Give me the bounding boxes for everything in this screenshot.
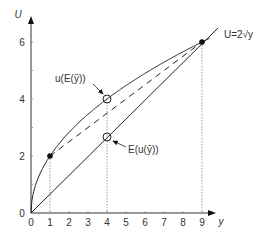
y-axis-label: U — [14, 9, 22, 20]
ytick-4: 4 — [19, 94, 25, 105]
xtick-4: 4 — [104, 217, 110, 228]
arrow-u-of-expectation — [93, 84, 103, 94]
ytick-2: 2 — [19, 151, 25, 162]
label-u-of-expectation: u(E(ȳ)) — [55, 73, 86, 84]
ytick-0: 0 — [19, 208, 25, 219]
point-9-6 — [199, 39, 205, 45]
arrow-expected-utility — [113, 141, 126, 147]
xtick-2: 2 — [66, 217, 72, 228]
xtick-3: 3 — [85, 217, 91, 228]
label-expected-utility: E(u(ȳ)) — [128, 144, 159, 155]
label-curve: U=2√y — [224, 29, 253, 40]
dashed-chord — [50, 42, 202, 156]
linear-line — [31, 28, 218, 213]
xtick-8: 8 — [180, 217, 186, 228]
xtick-6: 6 — [142, 217, 148, 228]
xtick-9: 9 — [199, 217, 205, 228]
utility-chart: 0 1 2 3 4 5 6 7 8 9 y 0 2 4 6 U u(E(ȳ)) … — [0, 0, 271, 241]
xtick-5: 5 — [123, 217, 129, 228]
point-1-2 — [47, 153, 53, 159]
drop-lines — [50, 42, 202, 213]
ytick-6: 6 — [19, 37, 25, 48]
xtick-1: 1 — [47, 217, 53, 228]
x-axis-label: y — [218, 216, 225, 227]
point-expected-utility — [103, 133, 111, 141]
xtick-0: 0 — [28, 217, 34, 228]
xtick-7: 7 — [161, 217, 167, 228]
